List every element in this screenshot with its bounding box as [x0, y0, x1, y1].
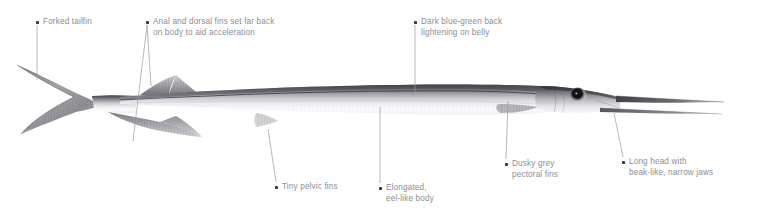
- callout-bullet-anal-and-dorsal-fins: [146, 21, 149, 24]
- leader-head: [614, 113, 623, 157]
- callout-bullet-forked-tailfin: [36, 21, 39, 24]
- garfish-illustration: [0, 0, 763, 217]
- callout-bullet-tiny-pelvic-fins: [275, 186, 278, 189]
- callout-bullet-dark-blue-green-back: [414, 21, 417, 24]
- leader-dorsal-fin: [147, 25, 151, 86]
- callout-label-forked-tailfin: Forked tailfin: [43, 16, 92, 27]
- callout-label-anal-and-dorsal-fins: Anal and dorsal fins set far back on bod…: [153, 16, 274, 38]
- garfish-anatomy-figure: Forked tailfinAnal and dorsal fins set f…: [0, 0, 763, 217]
- callout-label-elongated-eel-like-body: Elongated, eel-like body: [386, 182, 434, 204]
- tailfin-shape: [17, 65, 100, 134]
- callout-bullet-long-head-with-beak: [622, 161, 625, 164]
- callout-bullet-elongated-eel-like-body: [379, 187, 382, 190]
- anal-fin: [108, 112, 202, 137]
- pelvic-fin: [255, 113, 279, 127]
- callout-label-dusky-grey-pectoral-fins: Dusky grey pectoral fins: [512, 158, 558, 180]
- upper-jaw: [616, 96, 724, 103]
- lower-jaw: [600, 108, 722, 114]
- leader-pelvic-fin: [268, 129, 276, 182]
- callout-label-dark-blue-green-back: Dark blue-green back lightening on belly: [421, 16, 502, 38]
- fish-eye: [570, 88, 586, 103]
- callout-label-tiny-pelvic-fins: Tiny pelvic fins: [282, 181, 338, 192]
- callout-bullet-dusky-grey-pectoral-fins: [505, 163, 508, 166]
- callout-label-long-head-with-beak: Long head with beak-like, narrow jaws: [629, 156, 713, 178]
